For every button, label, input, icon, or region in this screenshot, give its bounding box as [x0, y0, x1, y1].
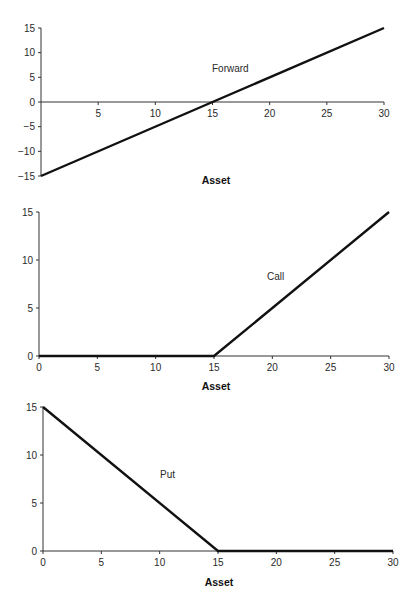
x-tick-label: 15 [212, 557, 224, 568]
y-tick-label: 0 [29, 97, 35, 108]
x-tick-label: 5 [99, 557, 105, 568]
series-label: Call [267, 271, 284, 282]
x-tick-label: 10 [150, 362, 162, 373]
y-axis: 151050−5−10−15 [18, 23, 41, 182]
x-tick-label: 25 [321, 108, 333, 119]
x-tick-label: 15 [207, 108, 219, 119]
series-label: Put [160, 469, 175, 480]
x-axis-title: Asset [202, 380, 231, 392]
call-payoff-chart: 151050 051015202530 Call Asset [22, 207, 395, 393]
forward-payoff-chart: 151050−5−10−15 51015202530 Forward Asset [18, 23, 390, 187]
x-tick-label: 30 [378, 108, 390, 119]
x-tick-label: 10 [150, 108, 162, 119]
payoff-line [43, 407, 393, 551]
series-label: Forward [212, 63, 249, 74]
x-tick-label: 10 [154, 557, 166, 568]
x-tick-label: 15 [208, 362, 220, 373]
data-series [39, 212, 389, 356]
x-tick-label: 20 [271, 557, 283, 568]
y-tick-label: 0 [27, 351, 33, 362]
y-tick-label: 15 [24, 23, 36, 34]
y-axis: 151050 [22, 207, 39, 362]
y-tick-label: 0 [31, 546, 37, 557]
x-axis: 51015202530 [41, 102, 390, 119]
y-tick-label: −5 [24, 121, 36, 132]
put-payoff-chart: 151050 051015202530 Put Asset [26, 402, 399, 589]
y-tick-label: 5 [27, 303, 33, 314]
x-tick-label: 25 [325, 362, 337, 373]
y-tick-label: 15 [22, 207, 34, 218]
x-axis-title: Asset [202, 174, 231, 186]
payoff-charts: 151050−5−10−15 51015202530 Forward Asset… [0, 0, 417, 598]
y-tick-label: 10 [24, 47, 36, 58]
x-tick-label: 30 [387, 557, 399, 568]
y-tick-label: 10 [22, 255, 34, 266]
x-tick-label: 5 [95, 108, 101, 119]
x-tick-label: 0 [36, 362, 42, 373]
x-tick-label: 5 [95, 362, 101, 373]
y-tick-label: 15 [26, 402, 38, 413]
x-tick-label: 0 [40, 557, 46, 568]
y-axis: 151050 [26, 402, 43, 557]
y-tick-label: 5 [31, 498, 37, 509]
y-tick-label: −15 [18, 171, 35, 182]
x-axis-title: Asset [205, 576, 234, 588]
x-tick-label: 20 [264, 108, 276, 119]
x-tick-label: 25 [329, 557, 341, 568]
y-tick-label: −10 [18, 146, 35, 157]
x-tick-label: 20 [267, 362, 279, 373]
x-tick-label: 30 [383, 362, 395, 373]
payoff-line [39, 212, 389, 356]
x-axis: 051015202530 [36, 356, 395, 373]
data-series [43, 407, 393, 551]
x-axis: 051015202530 [40, 551, 399, 568]
y-tick-label: 10 [26, 450, 38, 461]
y-tick-label: 5 [29, 72, 35, 83]
